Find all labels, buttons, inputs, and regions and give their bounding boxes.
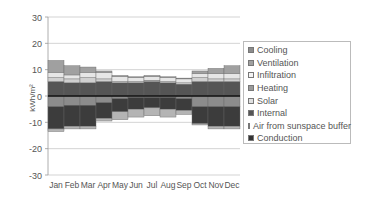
y-tick-label: -10 xyxy=(29,118,42,128)
bar-segment xyxy=(96,103,112,119)
bar-segment xyxy=(160,83,176,96)
bar-segment xyxy=(112,112,128,120)
bar-segment xyxy=(192,124,208,125)
legend-swatch-icon xyxy=(248,135,254,141)
bar-segment xyxy=(48,107,64,129)
legend-label: Heating xyxy=(257,83,288,93)
y-tick-label: -30 xyxy=(29,171,42,181)
bar-segment xyxy=(64,83,80,96)
legend-label: Air from sunspace buffer xyxy=(253,121,351,131)
bar-segment xyxy=(112,83,128,96)
bar-segment xyxy=(192,71,208,74)
x-tick-label: Jul xyxy=(147,180,158,190)
legend-item: Cooling xyxy=(248,44,350,57)
x-tick-label: Jun xyxy=(129,180,143,190)
x-tick-label: Oct xyxy=(193,180,207,190)
y-tick-label: 30 xyxy=(32,13,42,23)
bar-segment xyxy=(80,83,96,96)
legend-swatch-icon xyxy=(248,47,254,53)
bar-segment xyxy=(144,97,160,108)
x-tick-label: Aug xyxy=(160,180,175,190)
bar-segment xyxy=(48,78,64,82)
chart: 3020100-10-20-30kWh/m²JanFebMarAprMayJun… xyxy=(0,0,373,198)
x-tick-label: Apr xyxy=(97,180,110,190)
x-tick-label: May xyxy=(112,180,129,190)
bar-segment xyxy=(208,107,224,127)
bar-segment xyxy=(160,78,176,82)
bar-segment xyxy=(224,107,240,127)
bar-segment xyxy=(192,82,208,96)
bar-segment xyxy=(192,74,208,78)
bar-segment xyxy=(64,79,80,83)
x-tick-label: Nov xyxy=(208,180,224,190)
bar-segment xyxy=(224,82,240,96)
x-tick-label: Jan xyxy=(49,180,63,190)
bar-segment xyxy=(64,66,80,75)
legend-swatch-icon xyxy=(248,72,254,78)
bar-segment xyxy=(128,77,144,78)
bar-segment xyxy=(96,96,112,103)
bar-segment xyxy=(96,118,112,121)
legend-label: Ventilation xyxy=(257,58,299,68)
bar-segment xyxy=(96,71,112,72)
legend-label: Conduction xyxy=(257,133,303,143)
bar-segment xyxy=(80,78,96,83)
legend-label: Solar xyxy=(257,96,278,106)
bar-segment xyxy=(80,72,96,77)
bar-segment xyxy=(160,97,176,109)
bar-segment xyxy=(112,99,128,112)
bar-segment xyxy=(48,82,64,96)
bar-segment xyxy=(112,76,128,81)
bar-segment xyxy=(144,82,160,96)
legend-label: Internal xyxy=(257,108,287,118)
bar-segment xyxy=(192,96,208,107)
bar-segment xyxy=(208,126,224,129)
bar-segment xyxy=(64,126,80,129)
bar-segment xyxy=(224,79,240,82)
legend-item: Ventilation xyxy=(248,57,350,70)
bar-segment xyxy=(112,75,128,76)
bar-segment xyxy=(64,96,80,105)
bar-segment xyxy=(176,84,192,96)
bar-segment xyxy=(80,96,96,105)
bar-segment xyxy=(176,99,192,111)
bar-segment xyxy=(64,105,80,126)
y-tick-label: 20 xyxy=(32,39,42,49)
legend-label: Infiltration xyxy=(257,70,296,80)
bar-segment xyxy=(128,109,144,117)
bar-segment xyxy=(80,126,96,129)
bar-segment xyxy=(128,83,144,96)
legend-label: Cooling xyxy=(257,45,288,55)
bar-segment xyxy=(160,109,176,117)
bar-segment xyxy=(224,74,240,79)
bar-segment xyxy=(176,79,192,83)
legend-swatch-icon xyxy=(248,123,250,129)
bar-segment xyxy=(192,78,208,82)
bar-segment xyxy=(144,76,160,80)
bar-segment xyxy=(176,110,192,114)
legend-item: Air from sunspace buffer xyxy=(248,120,350,133)
bar-segment xyxy=(144,75,160,76)
bar-segment xyxy=(176,78,192,79)
legend-swatch-icon xyxy=(248,98,254,104)
bar-segment xyxy=(48,72,64,77)
x-tick-label: Dec xyxy=(224,180,240,190)
bar-segment xyxy=(208,79,224,82)
legend-swatch-icon xyxy=(248,85,254,91)
bar-segment xyxy=(208,74,224,79)
bar-segment xyxy=(224,66,240,74)
x-tick-label: Feb xyxy=(65,180,80,190)
legend-swatch-icon xyxy=(248,60,254,66)
bar-segment xyxy=(80,105,96,126)
bar-segment xyxy=(192,107,208,124)
bar-segment xyxy=(128,97,144,109)
legend-item: Internal xyxy=(248,107,350,120)
bar-segment xyxy=(208,82,224,96)
x-tick-label: Sep xyxy=(176,180,191,190)
legend-item: Heating xyxy=(248,82,350,95)
bar-segment xyxy=(96,72,112,79)
bar-segment xyxy=(48,60,64,72)
bar-segment xyxy=(48,129,64,132)
legend-item: Conduction xyxy=(248,132,350,145)
bar-segment xyxy=(128,78,144,82)
